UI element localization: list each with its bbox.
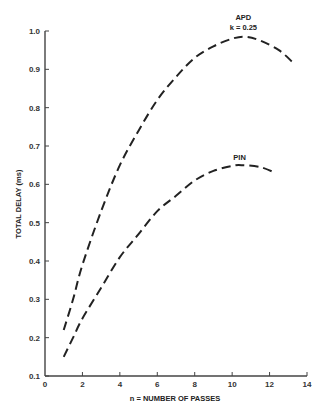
x-tick-label: 2 bbox=[80, 380, 85, 389]
apd-curve bbox=[64, 37, 292, 330]
y-tick-label: 1.0 bbox=[29, 27, 41, 36]
x-tick-label: 0 bbox=[43, 380, 48, 389]
y-tick-label: 0.7 bbox=[29, 142, 41, 151]
x-tick-label: 12 bbox=[265, 380, 274, 389]
series-lines bbox=[64, 37, 292, 357]
y-tick-label: 0.5 bbox=[29, 219, 41, 228]
x-tick-label: 4 bbox=[118, 380, 123, 389]
apd-label: APD bbox=[235, 13, 251, 22]
y-tick-label: 0.8 bbox=[29, 104, 41, 113]
pin-label: PIN bbox=[233, 153, 246, 162]
y-tick-label: 0.6 bbox=[29, 180, 41, 189]
y-axis-label: TOTAL DELAY (ms) bbox=[14, 169, 23, 238]
x-tick-label: 14 bbox=[303, 380, 312, 389]
y-tick-label: 0.2 bbox=[29, 334, 41, 343]
x-tick-label: 8 bbox=[192, 380, 197, 389]
y-tick-label: 0.1 bbox=[29, 372, 41, 381]
x-axis-label: n = NUMBER OF PASSES bbox=[130, 394, 221, 403]
y-tick-label: 0.3 bbox=[29, 295, 41, 304]
apd-k-label: k = 0.25 bbox=[230, 23, 257, 32]
y-tick-label: 0.4 bbox=[29, 257, 41, 266]
x-tick-label: 10 bbox=[228, 380, 237, 389]
axes: 0.10.20.30.40.50.60.70.80.91.00246810121… bbox=[29, 27, 312, 389]
x-tick-label: 6 bbox=[155, 380, 160, 389]
y-tick-label: 0.9 bbox=[29, 65, 41, 74]
line-chart: 0.10.20.30.40.50.60.70.80.91.00246810121… bbox=[0, 0, 325, 415]
pin-curve bbox=[64, 165, 275, 357]
